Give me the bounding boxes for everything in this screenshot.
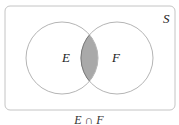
universe-label: S [163,11,170,26]
set-e-label: E [61,50,70,65]
set-f-label: F [111,50,121,65]
caption: E ∩ F [73,113,104,125]
venn-diagram: S E F E ∩ F [0,0,179,125]
